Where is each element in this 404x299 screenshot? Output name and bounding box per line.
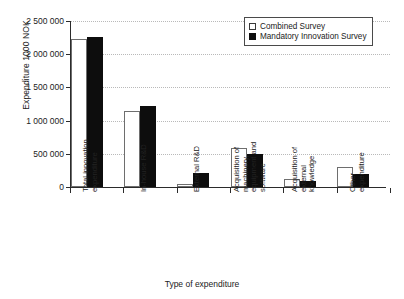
gridline (70, 87, 390, 88)
legend-item-mandatory-innovation-survey: Mandatory Innovation Survey (249, 32, 367, 41)
y-tick-label: 1 000 000 (4, 116, 64, 126)
hollow-square-icon (249, 23, 256, 30)
x-tick-mark (390, 188, 391, 193)
y-tick-label: 2 000 000 (4, 49, 64, 59)
x-category-label: External R&D (193, 114, 202, 192)
y-tick-label: 500 000 (4, 149, 64, 159)
y-tick-label: 0 (4, 182, 64, 192)
x-axis-line (70, 187, 386, 188)
x-category-label: Acquisition of machinery, equipment and … (233, 114, 267, 192)
x-category-label: In-house R&D (140, 114, 149, 192)
x-tick-mark (177, 188, 178, 193)
filled-square-icon (249, 33, 256, 40)
bar-chart: Expenditure 1000 NOK 2 500 0002 000 0001… (0, 0, 404, 299)
x-category-label: Acquisition of external knowledge (291, 114, 317, 192)
bar-combined-survey (124, 111, 140, 187)
gridline (70, 54, 390, 55)
legend-label: Mandatory Innovation Survey (260, 32, 367, 41)
legend-item-combined-survey: Combined Survey (249, 22, 367, 31)
x-tick-mark (337, 188, 338, 193)
legend-label: Combined Survey (260, 22, 325, 31)
x-category-label: Other expenditure (349, 114, 366, 192)
gridline (70, 121, 390, 122)
y-axis-line (70, 21, 71, 188)
x-tick-mark (123, 188, 124, 193)
x-tick-mark (70, 188, 71, 193)
x-category-label: Total innovation expenditure (82, 114, 99, 192)
x-tick-mark (283, 188, 284, 193)
legend: Combined Survey Mandatory Innovation Sur… (244, 17, 373, 46)
y-tick-label: 1 500 000 (4, 82, 64, 92)
x-tick-mark (230, 188, 231, 193)
x-axis-title: Type of expenditure (0, 279, 404, 289)
y-tick-label: 2 500 000 (4, 16, 64, 26)
